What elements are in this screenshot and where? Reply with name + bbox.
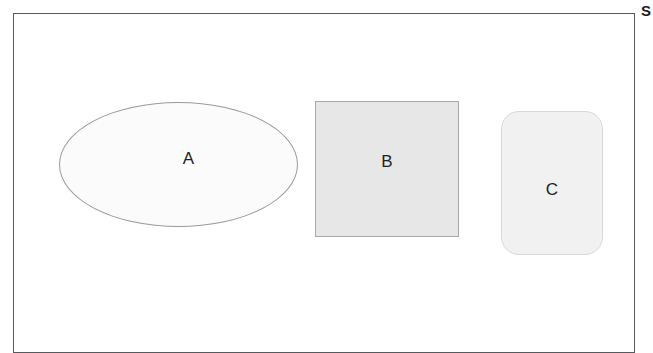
diagram-border: A B C (13, 13, 635, 353)
side-caption-text: S (641, 1, 653, 23)
shape-label-c: C (546, 181, 558, 198)
shape-label-b: B (381, 153, 392, 170)
shape-rounded-rectangle-c[interactable]: C (501, 111, 603, 255)
shape-square-b[interactable]: B (315, 101, 459, 237)
shape-ellipse-a[interactable]: A (59, 102, 298, 227)
shape-label-a: A (183, 150, 194, 167)
